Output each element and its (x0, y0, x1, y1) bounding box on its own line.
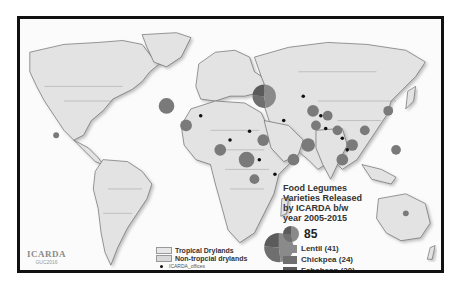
variety-marker (311, 121, 321, 131)
office-marker (248, 130, 252, 134)
crop-label: Chickpea (24) (301, 255, 353, 264)
lentil-swatch (283, 245, 297, 253)
crop-legend-item: Lentil (41) (283, 244, 403, 253)
zone-legend: Tropical Drylands Non-tropcial drylands … (156, 246, 247, 270)
zone-swatch (156, 255, 172, 262)
variety-marker (214, 144, 226, 156)
office-marker (282, 119, 286, 123)
zone-legend-item: Tropical Drylands (156, 246, 247, 254)
japan (406, 86, 416, 108)
variety-marker (288, 154, 300, 166)
variety-marker (53, 132, 59, 138)
south-america (93, 160, 152, 265)
variety-marker (301, 138, 315, 152)
office-marker (345, 148, 349, 152)
variety-marker (159, 98, 175, 114)
zone-swatch (156, 247, 172, 254)
fababean-swatch (283, 267, 297, 274)
variety-marker (250, 174, 260, 184)
crop-legend-item: Chickpea (24) (283, 255, 403, 264)
central-america (74, 140, 103, 164)
variety-marker (336, 154, 348, 166)
office-marker (341, 136, 345, 140)
office-marker (199, 114, 203, 118)
zone-label: Tropical Drylands (175, 247, 234, 254)
new-zealand (427, 246, 435, 260)
total-count: 85 (304, 227, 317, 241)
legend-title: Food Legumes Varieties Released by ICARD… (283, 183, 403, 223)
indian-subcontinent (316, 128, 347, 179)
offices-legend-item: ICARDA_offices (156, 262, 247, 270)
variety-marker (391, 145, 401, 155)
icarda-logo: ICARDA GUC2016 (27, 249, 66, 265)
legend-title-line: year 2005-2015 (283, 213, 403, 223)
variety-marker (307, 105, 319, 117)
map-frame: ICARDA GUC2016 Tropical Drylands Non-tro… (17, 16, 444, 273)
office-marker (273, 173, 277, 177)
variety-marker (180, 120, 192, 132)
variety-marker (403, 210, 409, 216)
legend-title-line: Food Legumes (283, 183, 403, 193)
office-marker (228, 138, 232, 142)
legend-title-line: by ICARDA b/w (283, 203, 403, 213)
logo-name: ICARDA (27, 249, 66, 259)
pie-chart-icon (283, 226, 299, 242)
southeast-asia (362, 165, 396, 185)
zone-legend-item: Non-tropcial drylands (156, 254, 247, 262)
logo-subtitle: GUC2016 (27, 259, 66, 265)
pie-marker (252, 84, 275, 107)
office-marker (324, 127, 328, 131)
office-dot-icon (160, 265, 163, 268)
legend-total: 85 (283, 226, 403, 242)
variety-marker (257, 134, 269, 146)
offices-label: ICARDA_offices (169, 263, 205, 269)
variety-marker (239, 152, 255, 168)
variety-marker (360, 125, 370, 135)
office-marker (319, 114, 323, 118)
office-marker (258, 158, 262, 162)
crop-label: Lentil (41) (301, 244, 339, 253)
north-america (30, 40, 162, 140)
legume-legend: Food Legumes Varieties Released by ICARD… (283, 183, 403, 273)
office-marker (302, 94, 306, 98)
variety-marker (333, 125, 343, 135)
legend-title-line: Varieties Released (283, 193, 403, 203)
zone-label: Non-tropcial drylands (175, 255, 247, 262)
variety-marker (383, 106, 393, 116)
crop-label: Fababean (20) (301, 266, 355, 273)
variety-marker (323, 111, 333, 121)
chickpea-swatch (283, 256, 297, 264)
crop-legend-item: Fababean (20) (283, 266, 403, 273)
